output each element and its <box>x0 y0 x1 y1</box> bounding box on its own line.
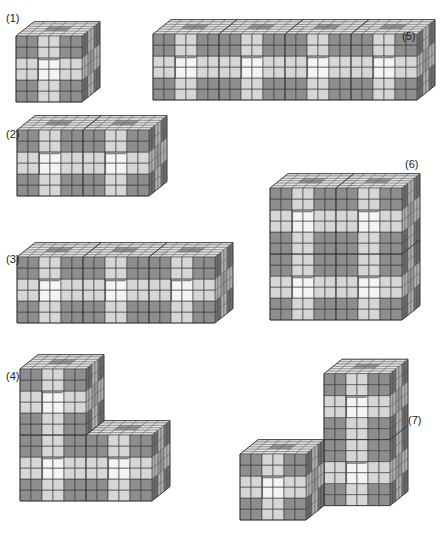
front-face-cube <box>53 424 64 435</box>
front-face-cube <box>193 279 204 290</box>
front-face-cube <box>42 490 53 501</box>
front-face-cube <box>329 67 340 78</box>
front-face-cube <box>335 440 346 451</box>
front-face-cube <box>340 78 351 89</box>
hole-shadow <box>175 56 197 58</box>
front-face-cube <box>182 257 193 268</box>
front-face-cube <box>127 174 138 185</box>
front-face-cube <box>346 385 357 396</box>
front-face-cube <box>395 89 406 100</box>
front-face-cube <box>83 257 94 268</box>
front-face-cube <box>186 45 197 56</box>
front-face-cube <box>391 243 402 254</box>
front-face-cube <box>252 89 263 100</box>
front-face-cube <box>138 257 149 268</box>
front-face-cube <box>292 221 303 232</box>
side-face-cube <box>164 423 167 436</box>
front-face-cube <box>39 163 50 174</box>
front-face-cube <box>27 80 38 91</box>
front-face-cube <box>270 221 281 232</box>
front-face-cube <box>369 287 380 298</box>
front-face-cube <box>357 407 368 418</box>
front-face-cube <box>53 479 64 490</box>
side-face-cube <box>152 125 155 138</box>
front-face-cube <box>273 509 284 520</box>
front-face-cube <box>270 254 281 265</box>
front-face-cube <box>379 429 390 440</box>
front-face-cube <box>285 45 296 56</box>
front-face-cube <box>138 301 149 312</box>
front-face-cube <box>105 163 116 174</box>
front-face-cube <box>94 312 105 323</box>
front-face-cube <box>270 298 281 309</box>
front-face-cube <box>384 67 395 78</box>
side-face-cube <box>92 362 95 375</box>
front-face-cube <box>20 468 31 479</box>
front-face-cube <box>336 199 347 210</box>
front-face-cube <box>75 391 86 402</box>
hole-shadow <box>105 152 127 154</box>
front-face-cube <box>171 268 182 279</box>
front-face-cube <box>61 141 72 152</box>
front-face-cube <box>17 290 28 301</box>
front-face-cube <box>83 290 94 301</box>
front-face-cube <box>153 89 164 100</box>
front-face-cube <box>379 407 390 418</box>
front-face-cube <box>358 221 369 232</box>
front-face-cube <box>31 457 42 468</box>
front-face-cube <box>204 257 215 268</box>
front-face-cube <box>197 56 208 67</box>
side-face-cube <box>97 22 100 35</box>
front-face-cube <box>83 141 94 152</box>
front-face-cube <box>274 67 285 78</box>
front-face-cube <box>116 301 127 312</box>
front-face-cube <box>20 446 31 457</box>
front-face-cube <box>105 312 116 323</box>
front-face-cube <box>318 89 329 100</box>
front-face-cube <box>28 141 39 152</box>
front-face-cube <box>380 309 391 320</box>
front-face-cube <box>262 487 273 498</box>
front-face-cube <box>336 287 347 298</box>
front-face-cube <box>204 301 215 312</box>
front-face-cube <box>362 34 373 45</box>
front-face-cube <box>292 254 303 265</box>
front-face-cube <box>296 78 307 89</box>
side-face-cube <box>411 178 414 191</box>
front-face-cube <box>50 301 61 312</box>
side-face-cube <box>161 118 164 131</box>
front-face-cube <box>273 498 284 509</box>
front-face-cube <box>281 221 292 232</box>
front-face-cube <box>252 67 263 78</box>
front-face-cube <box>31 380 42 391</box>
front-face-cube <box>336 243 347 254</box>
side-face-cube <box>82 34 85 47</box>
front-face-cube <box>20 413 31 424</box>
front-face-cube <box>240 454 251 465</box>
front-face-cube <box>336 221 347 232</box>
front-face-cube <box>262 465 273 476</box>
front-face-cube <box>97 446 108 457</box>
front-face-cube <box>71 69 82 80</box>
hole-wall <box>346 396 347 418</box>
front-face-cube <box>284 509 295 520</box>
front-face-cube <box>314 298 325 309</box>
front-face-cube <box>362 78 373 89</box>
front-face-cube <box>380 199 391 210</box>
front-face-cube <box>314 265 325 276</box>
front-face-cube <box>347 188 358 199</box>
front-face-cube <box>60 47 71 58</box>
side-face-cube <box>227 245 230 258</box>
side-face-cube <box>164 116 167 129</box>
front-face-cube <box>31 402 42 413</box>
front-face-cube <box>346 451 357 462</box>
front-face-cube <box>138 290 149 301</box>
side-face-cube <box>91 26 94 39</box>
front-face-cube <box>340 34 351 45</box>
front-face-cube <box>61 185 72 196</box>
front-face-cube <box>292 243 303 254</box>
front-face-cube <box>17 301 28 312</box>
front-face-cube <box>351 56 362 67</box>
front-face-cube <box>380 287 391 298</box>
front-face-cube <box>72 141 83 152</box>
